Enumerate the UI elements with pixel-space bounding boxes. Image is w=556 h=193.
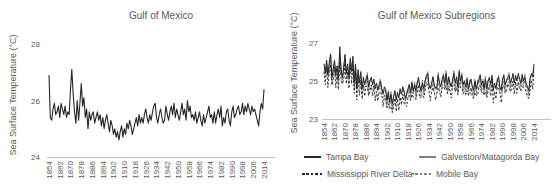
y-tick-label: 24 [31,153,40,162]
gulf-of-mexico-subregions-chart: Gulf of Mexico Subregions Sea Surface Te… [278,0,556,193]
x-tick-label: 2006 [519,122,528,140]
x-tick-label: 1990 [228,160,237,178]
x-tick-label: 1982 [217,160,226,178]
legend-label: Galveston/Matagorda Bay [441,152,539,162]
x-tick-label: 1934 [425,122,434,140]
legend-line-mississippi-river-delta [302,173,322,175]
x-tick-label: 1990 [498,122,507,140]
x-tick-label: 1950 [174,160,183,178]
legend-line-mobile-bay [411,173,431,175]
x-tick-label: 1926 [142,160,151,178]
x-tick-label: 1958 [456,122,465,140]
x-tick-label: 1966 [467,122,476,140]
x-tick-label: 1918 [131,160,140,178]
x-tick-label: 1998 [509,122,518,140]
x-tick-label: 1902 [383,122,392,140]
x-tick-label: 1862 [56,160,65,178]
x-tick-label: 1966 [195,160,204,178]
x-tick-label: 2014 [530,122,539,140]
y-tick-label: 23 [309,115,318,124]
x-tick-label: 1910 [393,122,402,140]
legend-item-tampa-bay: Tampa Bay [304,152,369,162]
x-tick-label: 1870 [66,160,75,178]
y-tick-label: 27 [309,39,318,48]
x-tick-label: 1998 [238,160,247,178]
legend-item-mobile-bay: Mobile Bay [411,169,478,179]
legend-label: Mississippi River Delta [327,169,413,179]
plot-area: 2426281854186218701878188618941902191019… [0,0,278,193]
x-tick-label: 1934 [152,160,161,178]
legend-line-galveston-matagorda-bay [419,156,436,158]
legend-label: Tampa Bay [326,152,369,162]
x-tick-label: 2014 [260,160,269,178]
x-tick-label: 1982 [488,122,497,140]
x-tick-label: 1854 [45,160,54,178]
x-tick-label: 1878 [351,122,360,140]
legend-line-tampa-bay [304,156,321,158]
x-tick-label: 1894 [372,122,381,140]
gulf-of-mexico-chart: Gulf of Mexico Sea Surface Temperature (… [0,0,278,193]
x-tick-label: 1894 [99,160,108,178]
plot-area: 2325271854186218701878188618941902191019… [278,0,556,193]
x-tick-label: 1870 [341,122,350,140]
x-tick-label: 1950 [446,122,455,140]
x-tick-label: 1958 [185,160,194,178]
x-tick-label: 1862 [330,122,339,140]
x-tick-label: 1902 [109,160,118,178]
x-tick-label: 1918 [404,122,413,140]
figure: Gulf of Mexico Sea Surface Temperature (… [0,0,556,193]
y-tick-label: 28 [31,40,40,49]
x-tick-label: 1886 [362,122,371,140]
x-tick-label: 1854 [320,122,329,140]
legend-item-galveston-matagorda-bay: Galveston/Matagorda Bay [419,152,539,162]
x-tick-label: 1942 [435,122,444,140]
y-tick-label: 25 [309,77,318,86]
x-tick-label: 1878 [77,160,86,178]
x-tick-label: 1974 [206,160,215,178]
x-tick-label: 1910 [120,160,129,178]
series-line-gulf-of-mexico [49,69,264,140]
x-tick-label: 1974 [477,122,486,140]
y-tick-label: 26 [31,97,40,106]
x-tick-label: 2006 [249,160,258,178]
x-tick-label: 1942 [163,160,172,178]
x-tick-label: 1926 [414,122,423,140]
x-tick-label: 1886 [88,160,97,178]
legend-item-mississippi-river-delta: Mississippi River Delta [302,169,413,179]
legend-label: Mobile Bay [436,169,478,179]
